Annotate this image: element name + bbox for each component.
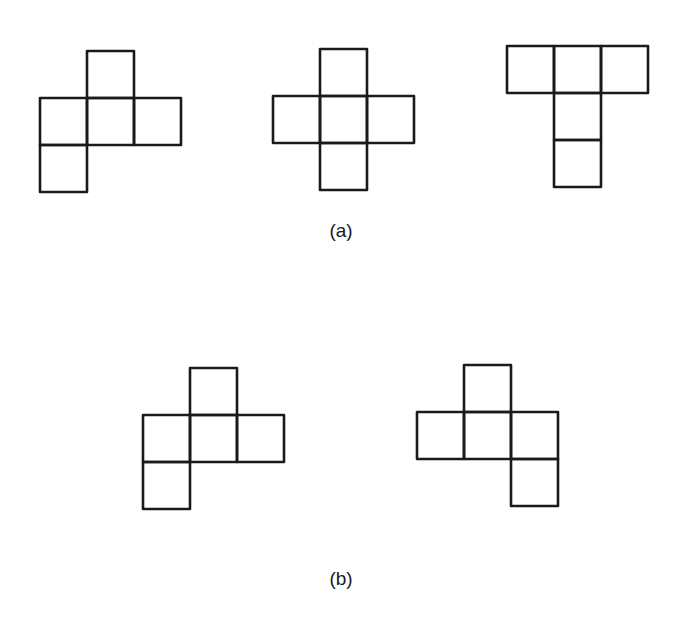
net-a3	[507, 46, 648, 187]
square-cell	[511, 412, 558, 459]
square-cell	[143, 462, 190, 509]
group-label-a: (a)	[329, 220, 352, 242]
square-cell	[87, 98, 134, 145]
square-cell	[273, 96, 320, 143]
square-cell	[601, 46, 648, 93]
square-cell	[320, 143, 367, 190]
square-cell	[507, 46, 554, 93]
square-cell	[40, 145, 87, 192]
square-cell	[190, 368, 237, 415]
square-cell	[40, 98, 87, 145]
square-cell	[320, 49, 367, 96]
net-a1	[40, 51, 181, 192]
square-cell	[464, 412, 511, 459]
figure-canvas	[0, 0, 682, 618]
square-cell	[464, 365, 511, 412]
square-cell	[554, 140, 601, 187]
group-label-b: (b)	[329, 568, 352, 590]
square-cell	[554, 93, 601, 140]
square-cell	[237, 415, 284, 462]
square-cell	[134, 98, 181, 145]
square-cell	[511, 459, 558, 506]
net-a2	[273, 49, 414, 190]
net-b1	[143, 368, 284, 509]
square-cell	[143, 415, 190, 462]
net-b2	[417, 365, 558, 506]
square-cell	[554, 46, 601, 93]
square-cell	[190, 415, 237, 462]
square-cell	[320, 96, 367, 143]
square-cell	[367, 96, 414, 143]
square-cell	[417, 412, 464, 459]
square-cell	[87, 51, 134, 98]
